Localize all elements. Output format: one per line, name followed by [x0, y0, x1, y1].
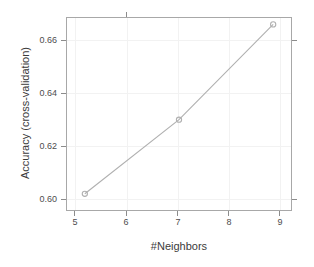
y-axis-tick [61, 93, 66, 94]
gridline-vertical [229, 18, 230, 210]
gridline-horizontal [67, 93, 291, 94]
y-axis-tick-right [292, 40, 297, 41]
x-tick-label: 7 [166, 217, 190, 227]
x-axis-tick-top [126, 12, 127, 17]
gridline-horizontal [67, 146, 291, 147]
y-tick-label: 0.60 [27, 194, 57, 204]
gridline-vertical [280, 18, 281, 210]
gridline-vertical [178, 18, 179, 210]
y-axis-tick [61, 199, 66, 200]
x-axis-tick [228, 211, 229, 216]
gridline-horizontal [67, 40, 291, 41]
x-tick-label: 8 [217, 217, 241, 227]
x-axis-title: #Neighbors [66, 240, 292, 252]
y-tick-label: 0.64 [27, 88, 57, 98]
gridline-vertical [75, 18, 76, 210]
y-tick-label: 0.66 [27, 35, 57, 45]
x-tick-label: 5 [63, 217, 87, 227]
x-axis-tick [177, 211, 178, 216]
y-axis-title: Accuracy (cross-validation) [19, 13, 31, 213]
x-axis-tick [74, 211, 75, 216]
y-axis-tick-right [292, 199, 297, 200]
y-axis-tick [61, 40, 66, 41]
gridline-horizontal [67, 199, 291, 200]
gridline-vertical [127, 18, 128, 210]
plot-panel [66, 17, 292, 211]
accuracy-vs-neighbors-chart: 5 6 7 8 9 0.60 0.62 0.64 0.66 #Neighbors… [0, 0, 314, 267]
x-tick-label: 6 [114, 217, 138, 227]
x-axis-tick [126, 211, 127, 216]
y-axis-tick [61, 146, 66, 147]
x-axis-tick [279, 211, 280, 216]
x-tick-label: 9 [268, 217, 292, 227]
y-tick-label: 0.62 [27, 141, 57, 151]
